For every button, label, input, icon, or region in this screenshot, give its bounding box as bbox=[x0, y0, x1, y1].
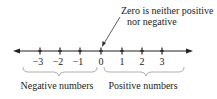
tick-label: −3 bbox=[33, 57, 44, 67]
negative-numbers-label: Negative numbers bbox=[20, 81, 93, 91]
annotation-line-1: Zero is neither positive bbox=[121, 5, 213, 16]
right-arrow-icon bbox=[186, 49, 193, 54]
tick-label: 2 bbox=[140, 57, 145, 67]
positive-numbers-label: Positive numbers bbox=[108, 81, 177, 91]
tick-label: −1 bbox=[73, 57, 84, 67]
zero-annotation: Zero is neither positive nor negative bbox=[121, 5, 213, 27]
annotation-arrow-icon bbox=[102, 41, 106, 47]
tick-label: 3 bbox=[160, 57, 165, 67]
positive-brace bbox=[104, 67, 184, 76]
negative-brace bbox=[23, 67, 97, 76]
tick-label: −2 bbox=[53, 57, 64, 67]
left-arrow-icon bbox=[13, 49, 20, 54]
tick-label: 1 bbox=[120, 57, 125, 67]
annotation-line-2: nor negative bbox=[121, 16, 213, 27]
annotation-pointer bbox=[103, 17, 120, 45]
tick-label: 0 bbox=[99, 57, 104, 67]
